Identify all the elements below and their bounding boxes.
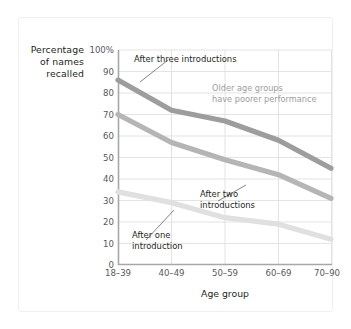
x-tick-18-39: 18–39 bbox=[105, 268, 131, 278]
x-tick-70-90: 70–90 bbox=[314, 268, 340, 278]
x-tick-50-59: 50–59 bbox=[212, 268, 238, 278]
y-axis-title-line-1: Percentage bbox=[8, 44, 84, 56]
y-tick-60: 60 bbox=[84, 131, 114, 141]
y-axis-title-line-3: recalled bbox=[8, 68, 84, 80]
x-tick-60-69: 60–69 bbox=[265, 268, 291, 278]
annotation-after-two-introductions: After two introductions bbox=[200, 189, 255, 210]
y-axis-title-line-2: of names bbox=[8, 56, 84, 68]
y-tick-30: 30 bbox=[84, 196, 114, 206]
y-tick-50: 50 bbox=[84, 153, 114, 163]
annotation-after-three-introductions: After three introductions bbox=[134, 54, 237, 65]
chart-figure: Percentage of names recalled 100% 90 80 … bbox=[0, 0, 351, 329]
y-tick-80: 80 bbox=[84, 88, 114, 98]
y-axis-ticks: 100% 90 80 70 60 50 40 30 20 10 0 bbox=[84, 50, 114, 265]
y-tick-10: 10 bbox=[84, 239, 114, 249]
y-axis-title: Percentage of names recalled bbox=[8, 44, 84, 81]
annotation-after-one-introduction: After one introduction bbox=[132, 230, 183, 251]
x-tick-40-49: 40–49 bbox=[158, 268, 184, 278]
y-tick-90: 90 bbox=[84, 67, 114, 77]
y-tick-70: 70 bbox=[84, 110, 114, 120]
y-tick-100: 100% bbox=[84, 45, 114, 55]
y-tick-20: 20 bbox=[84, 217, 114, 227]
y-tick-40: 40 bbox=[84, 174, 114, 184]
x-axis-ticks: 18–39 40–49 50–59 60–69 70–90 bbox=[118, 268, 332, 282]
annotation-older-age-groups-note: Older age groups have poorer performance bbox=[212, 83, 317, 104]
x-axis-title: Age group bbox=[118, 288, 332, 299]
